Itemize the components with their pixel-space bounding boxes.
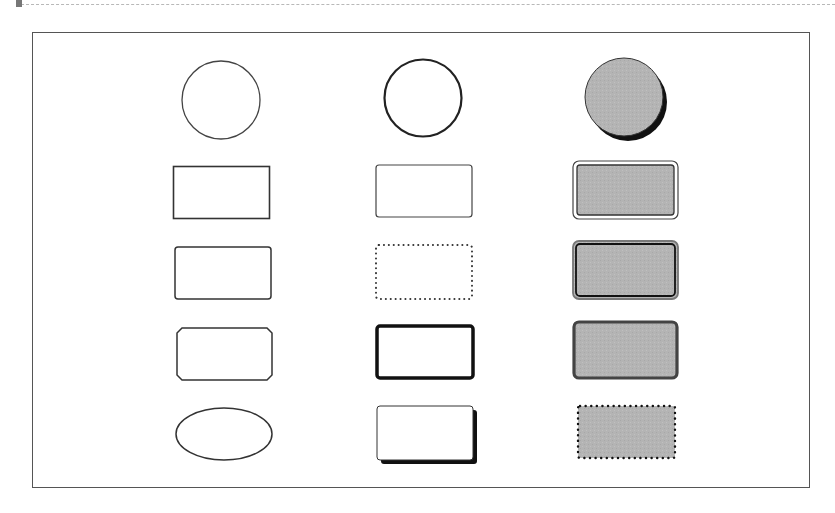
rectangle-square-corners[interactable]	[174, 167, 270, 219]
rectangle-rounded-drop-shadow[interactable]	[377, 406, 477, 464]
rectangle-filled-thick-gray-border[interactable]	[574, 322, 677, 378]
column-gray-filled	[573, 58, 678, 458]
rectangle-rounded-dotted[interactable]	[376, 245, 472, 299]
rectangle-filled-double-border-inner-thick[interactable]	[573, 241, 678, 299]
shapes-canvas	[0, 0, 835, 513]
column-plain-outline	[174, 61, 273, 460]
circle-medium-outline[interactable]	[385, 60, 462, 137]
column-styled-outline	[376, 60, 477, 465]
rectangle-filled-double-border-outer-thin[interactable]	[573, 161, 678, 219]
rectangle-beveled-corners[interactable]	[177, 328, 272, 380]
rectangle-rounded-thin[interactable]	[376, 165, 472, 217]
rectangle-rounded-thick[interactable]	[377, 326, 473, 378]
circle-filled-drop-shadow[interactable]	[585, 58, 667, 141]
rectangle-filled-dotted-border[interactable]	[578, 406, 675, 458]
ellipse-outline[interactable]	[176, 408, 272, 460]
circle-thin-outline[interactable]	[182, 61, 260, 139]
rectangle-rounded-corners[interactable]	[175, 247, 271, 299]
